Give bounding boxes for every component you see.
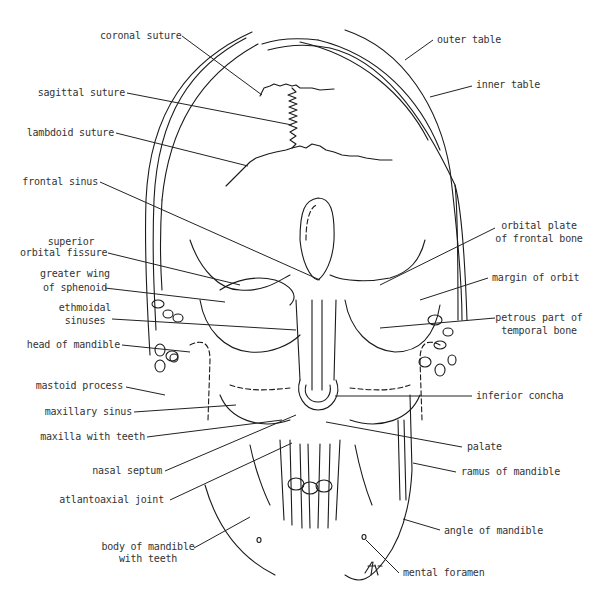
sutures [226, 84, 392, 186]
label-greater-wing-of-sphenoid-line2: of sphenoid [40, 282, 110, 294]
label-atlantoaxial-joint: atlantoaxial joint [40, 494, 164, 506]
label-orbital-plate-line1: orbital plate [494, 220, 584, 232]
label-outer-table: outer table [437, 34, 501, 46]
mastoid-air-cells [152, 300, 456, 376]
facial-bones [190, 198, 440, 424]
label-orbital-plate-line2: of frontal bone [494, 233, 584, 245]
cranial-vault [145, 30, 467, 355]
label-mastoid-process: mastoid process [20, 380, 123, 392]
label-petrous-part-line2: temporal bone [494, 325, 584, 337]
label-head-of-mandible: head of mandible [20, 339, 120, 351]
label-palate: palate [467, 441, 502, 453]
label-ethmoidal-sinuses-line1: ethmoidal [55, 302, 115, 314]
label-inferior-concha: inferior concha [476, 390, 563, 402]
label-nasal-septum: nasal septum [40, 465, 162, 477]
label-greater-wing-of-sphenoid-line1: greater wing [40, 268, 110, 280]
skull-diagram: coronal suture sagittal suture lambdoid … [0, 0, 594, 604]
label-inner-table: inner table [476, 79, 540, 91]
label-angle-of-mandible: angle of mandible [444, 525, 543, 537]
teeth [250, 440, 372, 528]
label-body-of-mandible-line1: body of mandible [100, 541, 196, 553]
label-superior-orbital-fissure-line2: orbital fissure [20, 247, 106, 259]
label-ethmoidal-sinuses-line2: sinuses [55, 315, 115, 327]
label-coronal-suture: coronal suture [100, 30, 180, 42]
label-maxillary-sinus: maxillary sinus [20, 406, 132, 418]
leader-lines-right [326, 40, 495, 573]
label-ramus-of-mandible: ramus of mandible [461, 466, 560, 478]
label-petrous-part-line1: petrous part of [494, 312, 584, 324]
label-body-of-mandible-line2: with teeth [100, 553, 196, 565]
label-lambdoid-suture: lambdoid suture [20, 127, 114, 139]
label-mental-foramen: mental foramen [403, 567, 485, 579]
label-margin-of-orbit: margin of orbit [492, 272, 579, 284]
label-frontal-sinus: frontal sinus [20, 176, 98, 188]
label-sagittal-suture: sagittal suture [30, 87, 125, 99]
label-maxilla-with-teeth: maxilla with teeth [20, 431, 145, 443]
